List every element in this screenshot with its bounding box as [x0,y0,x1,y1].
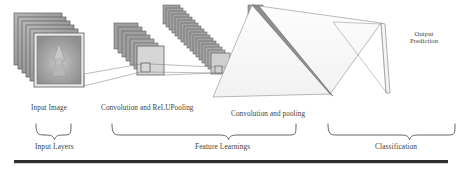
feature-learnings-brace [112,124,296,140]
label-classification: Classification [375,143,417,151]
label-convolution-relu-pooling: Convolution and ReLUPooling [101,104,194,112]
label-output-prediction: Output Prediction [410,30,438,45]
label-feature-learnings: Feature Learnings [195,143,250,151]
label-output-prediction-line1: Output [410,30,438,37]
label-input-image: Input Image [31,104,67,112]
input-image-front-card [34,33,84,87]
input-layers-brace [36,124,71,140]
receptive-field-connector-lines [84,64,141,86]
cnn-architecture-figure: Input Image Convolution and ReLUPooling … [0,0,464,174]
input-image-stack [14,13,84,87]
classification-brace [328,124,455,140]
label-convolution-pooling: Convolution and pooling [231,110,305,118]
conv1-front-card [137,46,164,75]
second-feature-map-stack [163,5,230,74]
bottom-rule [14,160,448,163]
label-input-layers: Input Layers [35,143,74,151]
label-output-prediction-line2: Prediction [410,37,438,44]
output-prediction-bar [381,23,390,93]
fully-connected-layer [213,5,381,97]
